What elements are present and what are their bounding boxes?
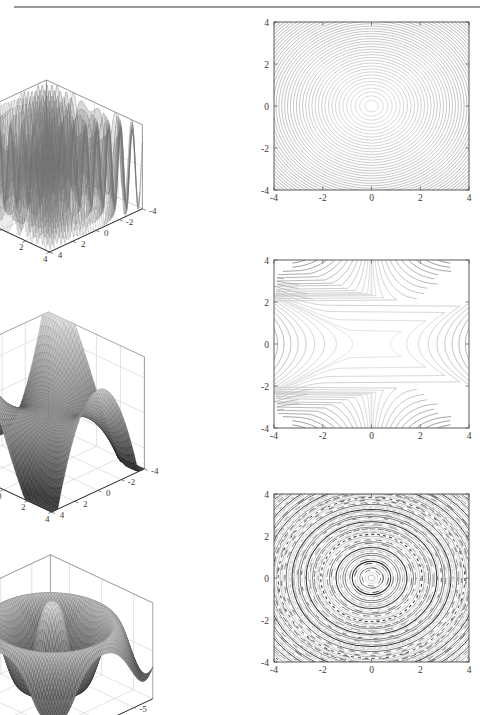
contour-line bbox=[401, 409, 434, 428]
contour-line bbox=[437, 304, 468, 384]
tick-label: 2 bbox=[264, 298, 269, 308]
contour-ring bbox=[298, 515, 445, 642]
contour-line bbox=[278, 413, 335, 428]
contour-plot-row2: -4-2024-4-2024 bbox=[252, 252, 492, 452]
tick-label: -2 bbox=[261, 144, 269, 154]
figure-grid: -4-2024420-2-410-1 -4-2024-4-2024 -4-202… bbox=[0, 0, 495, 715]
tick-label: -4 bbox=[261, 186, 269, 196]
surface-mesh bbox=[0, 593, 153, 715]
contour-ring bbox=[365, 572, 378, 583]
contour-plot-row1: -4-2024-4-2024 bbox=[252, 14, 492, 214]
tick-label: 4 bbox=[467, 193, 472, 203]
contour-ring bbox=[304, 520, 439, 636]
contour-ring bbox=[259, 481, 484, 675]
contour-ring bbox=[288, 34, 456, 179]
contour-ring bbox=[347, 85, 397, 128]
tick-mark bbox=[144, 469, 147, 471]
tick-label: 0 bbox=[264, 340, 269, 350]
contour-ring bbox=[312, 527, 430, 629]
contour-ring bbox=[318, 60, 424, 152]
tick-label: -4 bbox=[149, 206, 157, 216]
tick-label: 0 bbox=[369, 431, 374, 441]
contour-line bbox=[437, 260, 450, 263]
contour-line bbox=[395, 404, 437, 428]
tick-label: 2 bbox=[264, 60, 269, 70]
tick-label: 2 bbox=[264, 532, 269, 542]
tick-label: -5 bbox=[139, 704, 147, 714]
tick-mark bbox=[73, 241, 76, 243]
tick-label: 0 bbox=[369, 665, 374, 675]
tick-mark bbox=[96, 230, 99, 232]
tick-mark bbox=[134, 708, 136, 709]
contour-ring bbox=[296, 41, 446, 170]
contour-ring bbox=[253, 476, 490, 680]
contour-ring bbox=[286, 504, 457, 651]
tick-label: 2 bbox=[418, 193, 423, 203]
tick-mark bbox=[142, 209, 145, 211]
tick-label: -2 bbox=[261, 616, 269, 626]
tick-label: 0 bbox=[104, 228, 109, 238]
contour-lines bbox=[274, 260, 469, 428]
contour-ring bbox=[336, 547, 407, 608]
tick-label: 4 bbox=[467, 431, 472, 441]
tick-label: 0 bbox=[264, 574, 269, 584]
plot-frame bbox=[274, 22, 469, 190]
contour-ring bbox=[328, 69, 414, 143]
contour-line bbox=[408, 260, 438, 275]
contour-ring bbox=[310, 525, 432, 630]
contour-ring bbox=[257, 7, 487, 205]
tick-label: -4 bbox=[270, 431, 278, 441]
surface-facet bbox=[150, 667, 153, 673]
contour-line bbox=[408, 413, 438, 428]
tick-label: 4 bbox=[264, 490, 269, 500]
plot-cell-contour-row2: -4-2024-4-2024 bbox=[252, 252, 492, 452]
contour-ring bbox=[323, 536, 420, 620]
contour-ring bbox=[293, 39, 449, 174]
contour-ring bbox=[262, 12, 481, 201]
tick-label: -4 bbox=[151, 466, 159, 476]
tick-label: -2 bbox=[319, 431, 327, 441]
contour-ring bbox=[238, 0, 495, 221]
contour-ring bbox=[365, 100, 379, 112]
contour-line bbox=[293, 425, 306, 428]
tick-mark bbox=[119, 220, 122, 222]
contour-ring bbox=[338, 549, 404, 606]
contour-line bbox=[395, 260, 437, 284]
contour-ring bbox=[343, 81, 400, 130]
plot-cell-surface-row2: -4-2024420-2-4500-50 bbox=[8, 252, 253, 452]
contour-ring bbox=[282, 501, 461, 655]
contour-ring bbox=[268, 16, 476, 195]
contour-line bbox=[293, 260, 318, 267]
contour-line bbox=[276, 260, 446, 428]
contour-ring bbox=[231, 457, 495, 699]
contour-line bbox=[275, 260, 460, 428]
tick-label: -2 bbox=[319, 665, 327, 675]
tick-label: 2 bbox=[81, 239, 86, 249]
contour-ring bbox=[288, 506, 455, 650]
contour-ring bbox=[352, 561, 391, 594]
contour-lines bbox=[225, 0, 495, 232]
tick-label: -4 bbox=[270, 193, 278, 203]
surface-mesh bbox=[0, 85, 142, 250]
tick-label: -4 bbox=[261, 658, 269, 668]
contour-ring bbox=[368, 575, 375, 581]
contour-ring bbox=[339, 78, 404, 134]
contour-ring bbox=[294, 511, 449, 644]
contour-ring bbox=[345, 555, 398, 600]
contour-ring bbox=[251, 474, 491, 681]
contour-ring bbox=[332, 544, 412, 613]
contour-ring bbox=[312, 55, 431, 158]
contour-ring bbox=[357, 566, 386, 591]
contour-ring bbox=[259, 9, 483, 202]
contour-line bbox=[390, 400, 427, 428]
tick-label: 2 bbox=[418, 431, 423, 441]
contour-ring-fragment bbox=[231, 457, 495, 699]
contour-line bbox=[416, 260, 451, 272]
contour-ring bbox=[254, 5, 489, 208]
contour-line bbox=[385, 394, 424, 428]
contour-ring bbox=[351, 88, 392, 124]
tick-label: 0 bbox=[369, 193, 374, 203]
surface-plot-row2: -4-2024420-2-4500-50 bbox=[8, 252, 253, 452]
contour-plot-row3: -4-2024-4-2024 bbox=[252, 486, 492, 701]
tick-label: -4 bbox=[270, 665, 278, 675]
